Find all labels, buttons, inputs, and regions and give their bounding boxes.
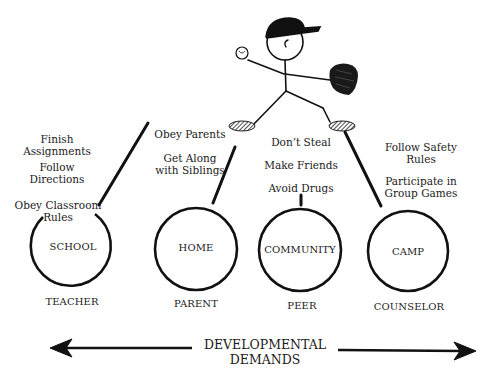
demand-avoid-drugs: Avoid Drugs [258,182,344,194]
left-shoe-icon [229,121,255,131]
label-line: Participate in [373,175,469,187]
demand-get-along-with-siblings: Get Along with Siblings [150,152,230,176]
label-line: Get Along [150,152,230,164]
setting-home: HOME [156,242,236,254]
diagram: Finish Assignments Follow Directions Obe… [0,0,483,377]
axis-label-developmental-demands: DEVELOPMENTAL DEMANDS [190,337,340,367]
label-line: Follow Safety [373,141,469,153]
label-line: Rules [373,153,469,165]
demand-finish-assignments: Finish Assignments [12,133,102,157]
role-counselor: COUNSELOR [364,301,454,313]
demand-make-friends: Make Friends [258,159,344,171]
baseball-glove-icon [329,64,358,95]
demand-obey-classroom-rules: Obey Classroom Rules [8,199,108,223]
setting-school: SCHOOL [33,241,113,253]
demand-participate-in-group-games: Participate in Group Games [373,175,469,199]
label-line: Directions [12,173,102,185]
label-line: with Siblings [150,164,230,176]
demand-dont-steal: Don’t Steal [258,136,344,148]
baseball-icon [236,47,248,59]
setting-community: COMMUNITY [255,244,345,256]
label-line: Follow [12,161,102,173]
setting-camp: CAMP [368,246,448,258]
role-teacher: TEACHER [32,296,112,308]
pitcher-stick-figure-icon [248,18,330,126]
right-shoe-icon [329,121,355,131]
label-line: Group Games [373,187,469,199]
demand-follow-directions: Follow Directions [12,161,102,185]
label-line: Assignments [12,145,102,157]
demand-follow-safety-rules: Follow Safety Rules [373,141,469,165]
label-line: Finish [12,133,102,145]
demand-obey-parents: Obey Parents [150,128,230,140]
axis-label-line: DEMANDS [190,352,340,367]
axis-label-line: DEVELOPMENTAL [190,337,340,352]
label-line: Rules [8,211,108,223]
role-parent: PARENT [156,298,236,310]
role-peer: PEER [262,300,342,312]
label-line: Obey Classroom [8,199,108,211]
